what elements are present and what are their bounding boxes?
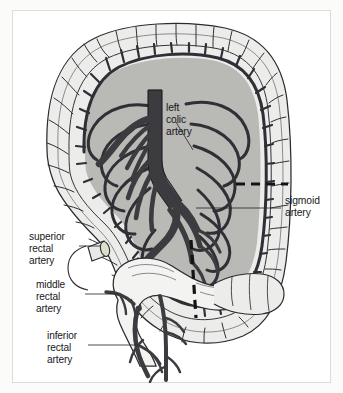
label-left-colic-artery-line-3: artery (166, 126, 193, 137)
label-middle-rectal-artery-line-2: rectal (36, 291, 60, 302)
label-middle-rectal-artery-line-3: artery (36, 303, 62, 314)
label-inferior-rectal-artery-line-1: inferior (47, 330, 78, 341)
label-left-colic-artery-line-2: colic (166, 114, 186, 125)
label-middle-rectal-artery-line-1: middle (36, 279, 66, 290)
label-superior-rectal-artery-line-1: superior (29, 231, 65, 242)
label-superior-rectal-artery-line-3: artery (29, 255, 55, 266)
sigmoid-colon-outline (214, 273, 284, 314)
anatomical-figure: left colic artery sigmoid artery superio… (0, 0, 343, 393)
label-left-colic-artery-line-1: left (166, 102, 180, 113)
label-sigmoid-artery-line-1: sigmoid (285, 195, 320, 206)
label-inferior-rectal-artery-line-2: rectal (47, 342, 71, 353)
label-superior-rectal-artery-line-2: rectal (29, 243, 53, 254)
label-sigmoid-artery-line-2: artery (285, 207, 312, 218)
label-inferior-rectal-artery-line-3: artery (47, 354, 73, 365)
